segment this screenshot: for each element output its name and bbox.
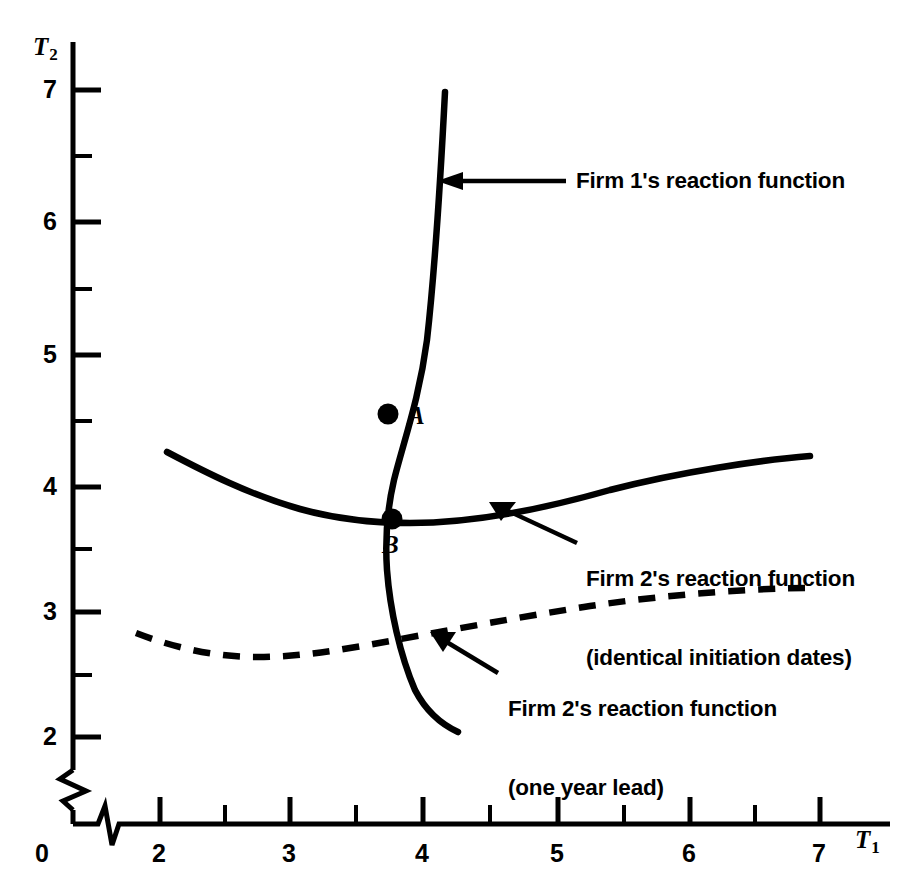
x-tick-label-2: 2: [152, 841, 166, 866]
y-axis-title-subscript: 2: [49, 45, 58, 64]
reaction-function-chart: T2 T1 7 6 5 4 3 2 0 2 3 4 5 6 7 A B Firm…: [0, 0, 907, 889]
firm1-annotation-arrow: [437, 172, 566, 190]
firm2-lead-annotation-arrow: [430, 632, 498, 673]
y-tick-label-4: 4: [43, 474, 57, 499]
firm2-lead-annotation: Firm 2's reaction function (one year lea…: [508, 643, 777, 854]
y-tick-label-3: 3: [43, 599, 57, 624]
point-b-label: B: [382, 531, 399, 559]
x-tick-label-3: 3: [282, 841, 296, 866]
y-axis-minor-ticks: [73, 156, 92, 675]
firm2-lead-annotation-line1: Firm 2's reaction function: [508, 696, 777, 722]
point-b-marker: [382, 509, 403, 530]
y-axis-major-ticks: [73, 90, 101, 737]
x-tick-label-7: 7: [812, 841, 826, 866]
y-axis-title: T2: [33, 33, 57, 61]
y-tick-label-7: 7: [43, 77, 57, 102]
x-tick-label-4: 4: [415, 841, 429, 866]
y-tick-label-6: 6: [43, 209, 57, 234]
firm2-identical-annotation-line1: Firm 2's reaction function: [586, 566, 855, 592]
y-axis-title-text: T: [33, 33, 48, 60]
x-axis-title-subscript: 1: [871, 838, 880, 857]
firm2-lead-annotation-line2: (one year lead): [508, 775, 777, 801]
point-a-marker: [378, 404, 399, 425]
y-tick-label-5: 5: [43, 342, 57, 367]
x-axis-title-text: T: [855, 826, 870, 853]
y-tick-label-2: 2: [43, 724, 57, 749]
firm1-annotation-label: Firm 1's reaction function: [576, 168, 845, 194]
x-axis-title: T1: [855, 826, 879, 854]
origin-label: 0: [35, 841, 49, 866]
point-a-label: A: [408, 402, 425, 430]
